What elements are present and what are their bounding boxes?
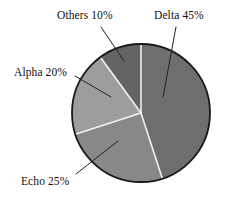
pie-label-delta: Delta 45% [154,10,204,22]
pie-label-echo: Echo 25% [21,176,69,188]
pie-chart-canvas [0,0,231,198]
pie-label-alpha: Alpha 20% [14,67,67,79]
pie-chart-figure: Delta 45% Others 10% Alpha 20% Echo 25% [0,0,231,198]
pie-label-others: Others 10% [57,10,113,22]
